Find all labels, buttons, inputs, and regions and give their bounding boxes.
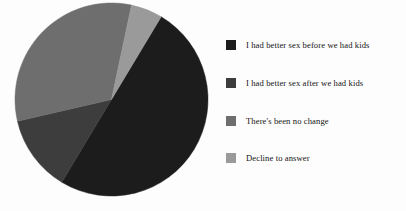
legend-label-1: I had better sex after we had kids	[246, 78, 363, 89]
pie-chart-figure: I had better sex before we had kids I ha…	[0, 0, 406, 211]
legend-label-2: There's been no change	[246, 116, 329, 127]
pie-slice-group	[15, 3, 208, 196]
legend-swatch-icon-2	[226, 116, 236, 126]
legend-label-3: Decline to answer	[246, 153, 310, 164]
legend-swatch-icon-3	[226, 153, 236, 163]
legend-item-better-after[interactable]: I had better sex after we had kids	[226, 76, 363, 90]
legend-label-0: I had better sex before we had kids	[246, 40, 370, 51]
legend-swatch-icon-0	[226, 40, 236, 50]
legend-item-decline[interactable]: Decline to answer	[226, 151, 310, 165]
legend-item-no-change[interactable]: There's been no change	[226, 114, 329, 128]
chart-legend: I had better sex before we had kids I ha…	[226, 30, 404, 180]
legend-swatch-icon-1	[226, 78, 236, 88]
legend-item-better-before[interactable]: I had better sex before we had kids	[226, 38, 370, 52]
pie-chart-svg	[14, 2, 209, 197]
pie-chart-plot-area	[14, 2, 209, 197]
